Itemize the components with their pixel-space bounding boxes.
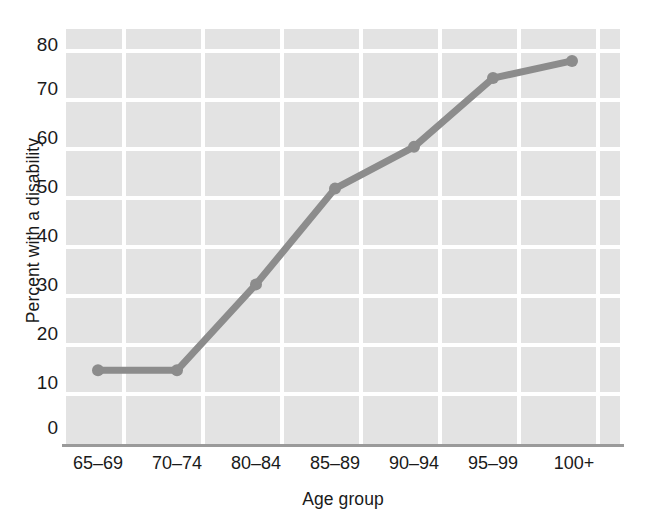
y-tick-label-70: 70: [0, 79, 58, 99]
data-point: [171, 364, 183, 376]
data-point: [250, 278, 262, 290]
x-axis-title: Age group: [66, 489, 620, 510]
chart-figure: Percent with a disability Age group 80 7…: [0, 0, 646, 520]
data-point: [329, 183, 341, 195]
series-polyline: [98, 61, 572, 370]
x-tick-label-100-plus: 100+: [519, 452, 629, 474]
data-series-line: [66, 29, 620, 444]
data-point: [92, 364, 104, 376]
y-tick-label-50: 50: [0, 177, 58, 197]
y-tick-label-40: 40: [0, 226, 58, 246]
y-tick-label-0: 0: [0, 418, 58, 438]
data-point: [566, 55, 578, 67]
y-tick-label-20: 20: [0, 324, 58, 344]
y-tick-label-80: 80: [0, 35, 58, 55]
y-tick-label-30: 30: [0, 275, 58, 295]
y-tick-label-60: 60: [0, 128, 58, 148]
x-axis-line: [62, 444, 624, 447]
series-markers: [92, 55, 578, 376]
data-point: [487, 72, 499, 84]
plot-area: [66, 29, 620, 444]
y-tick-label-10: 10: [0, 373, 58, 393]
data-point: [408, 141, 420, 153]
